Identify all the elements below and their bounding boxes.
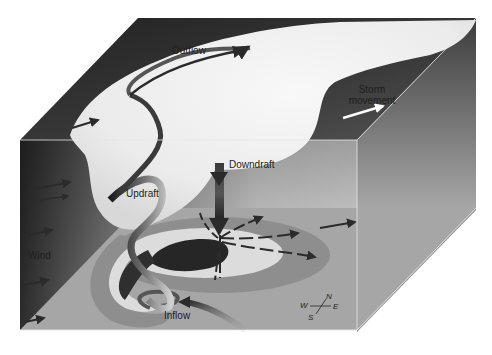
wind-label: Wind: [28, 250, 51, 261]
updraft-label: Updraft: [126, 188, 159, 199]
compass-north: N: [326, 292, 332, 301]
downdraft-label: Downdraft: [229, 159, 275, 170]
inflow-label: Inflow: [164, 310, 190, 321]
outflow-label: Outflow: [172, 45, 206, 56]
storm-box-illustration: [0, 0, 492, 355]
compass-south: S: [308, 313, 313, 322]
storm-diagram: Outflow Storm movement Downdraft Updraft…: [0, 0, 492, 355]
compass-west: W: [300, 301, 308, 310]
storm-movement-label: Storm movement: [342, 84, 402, 106]
storm-movement-line2: movement: [342, 95, 402, 106]
compass-east: E: [333, 302, 338, 311]
storm-movement-line1: Storm: [342, 84, 402, 95]
